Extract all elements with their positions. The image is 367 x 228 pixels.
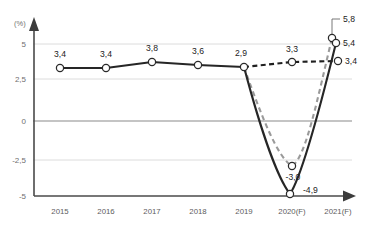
ytick-label-0: 0 [22,117,27,126]
data-label-2019: 2,9 [235,48,247,58]
xtick-label-2017: 2017 [143,207,160,216]
data-point-2015 [56,64,63,71]
data-point-2020-baseline [288,58,295,65]
data-label-2021-baseline: 3,4 [345,56,357,66]
data-label-2017: 3,8 [146,43,158,53]
data-point-2021-baseline [334,57,341,64]
data-label-2020-deep: -4,9 [303,185,318,195]
ytick-label-2p5: 2,5 [15,75,27,84]
data-label-2020-baseline: 3,3 [286,44,298,54]
series-moderate-line [244,38,332,166]
data-point-2019 [240,63,247,70]
xtick-label-2015: 2015 [51,207,69,216]
data-label-2016: 3,4 [100,49,112,59]
data-point-2017 [148,58,155,65]
ytick-label-neg2p5: -2,5 [12,156,26,165]
data-point-2020-moderate [288,162,295,169]
data-point-2018 [194,61,201,68]
y-axis-arrow-icon [29,17,39,31]
xtick-label-2019: 2019 [235,207,252,216]
data-point-2021-deep [332,39,339,46]
xtick-label-2016: 2016 [97,207,114,216]
x-axis-arrow-icon [343,191,356,202]
data-label-2021-deep: 5,4 [343,38,355,48]
data-label-2020-moderate: -3,0 [286,172,301,182]
data-label-2018: 3,6 [192,46,204,56]
data-label-2015: 3,4 [54,49,66,59]
ytick-label-neg5: -5 [19,192,27,201]
y-axis-unit-label: (%) [14,19,26,28]
xtick-label-2020f: 2020(F) [278,207,306,216]
xtick-label-2021f: 2021(F) [324,207,352,216]
line-chart: (%) 5 2,5 0 -2,5 -5 2015 2016 2017 2018 … [0,0,367,228]
chart-container: (%) 5 2,5 0 -2,5 -5 2015 2016 2017 2018 … [0,0,367,228]
xtick-label-2018: 2018 [189,207,206,216]
data-point-2020-deep [286,190,293,197]
ytick-label-5: 5 [22,40,27,49]
data-point-2016 [102,64,109,71]
data-label-2021-moderate: 5,8 [343,14,355,24]
